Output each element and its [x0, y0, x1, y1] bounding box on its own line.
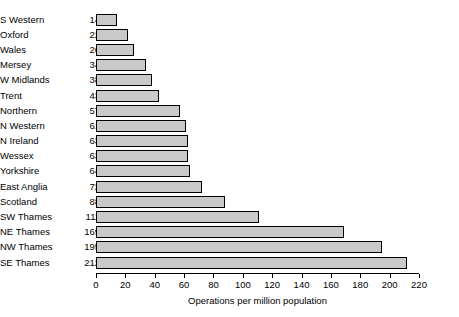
category-label: Oxford — [0, 30, 74, 40]
bar — [96, 135, 188, 147]
bar — [96, 105, 180, 117]
bar-chart: S Western14Oxford22Wales26Mersey34W Midl… — [0, 0, 459, 317]
category-label: W Midlands — [0, 75, 74, 85]
chart-row: Trent43 — [0, 88, 459, 103]
category-label: Wales — [0, 45, 74, 55]
chart-row: N Western61 — [0, 118, 459, 133]
category-label: NE Thames — [0, 227, 74, 237]
chart-row: Scotland88 — [0, 194, 459, 209]
bar-track — [96, 209, 419, 224]
chart-row: Oxford22 — [0, 27, 459, 42]
chart-row: Northern57 — [0, 103, 459, 118]
x-tick-label: 200 — [382, 279, 398, 290]
bar — [96, 44, 134, 56]
bar-track — [96, 12, 419, 27]
bar-track — [96, 134, 419, 149]
x-tick — [243, 274, 244, 278]
x-tick-label: 60 — [179, 279, 190, 290]
bar-track — [96, 103, 419, 118]
chart-row: W Midlands38 — [0, 73, 459, 88]
category-label: N Ireland — [0, 136, 74, 146]
x-tick-label: 140 — [294, 279, 310, 290]
bar — [96, 226, 344, 238]
bar-track — [96, 149, 419, 164]
category-label: Scotland — [0, 197, 74, 207]
bar — [96, 181, 202, 193]
bar-track — [96, 27, 419, 42]
category-label: Yorkshire — [0, 166, 74, 176]
chart-row: Mersey34 — [0, 58, 459, 73]
x-tick-label: 180 — [352, 279, 368, 290]
chart-row: NW Thames195 — [0, 240, 459, 255]
x-tick — [419, 274, 420, 278]
x-axis-line — [96, 273, 419, 274]
bar — [96, 257, 407, 269]
bar-track — [96, 118, 419, 133]
x-tick-label: 160 — [323, 279, 339, 290]
x-tick-label: 100 — [235, 279, 251, 290]
bar-track — [96, 225, 419, 240]
x-axis-title: Operations per million population — [96, 295, 419, 306]
bar — [96, 150, 188, 162]
chart-row: SW Thames111 — [0, 209, 459, 224]
category-label: Wessex — [0, 151, 74, 161]
category-label: East Anglia — [0, 182, 74, 192]
x-tick-label: 20 — [120, 279, 131, 290]
x-tick — [302, 274, 303, 278]
bar-track — [96, 88, 419, 103]
x-tick — [360, 274, 361, 278]
bar — [96, 165, 190, 177]
bar — [96, 120, 186, 132]
chart-row: Yorkshire64 — [0, 164, 459, 179]
chart-row: SE Thames212 — [0, 255, 459, 270]
chart-row: NE Thames169 — [0, 225, 459, 240]
bar-track — [96, 255, 419, 270]
bar-track — [96, 179, 419, 194]
category-label: Northern — [0, 106, 74, 116]
chart-row: East Anglia72 — [0, 179, 459, 194]
chart-row: S Western14 — [0, 12, 459, 27]
bar-track — [96, 240, 419, 255]
bar-track — [96, 42, 419, 57]
x-tick — [331, 274, 332, 278]
category-label: Mersey — [0, 60, 74, 70]
bar — [96, 59, 146, 71]
bar — [96, 74, 152, 86]
bar-track — [96, 164, 419, 179]
bar — [96, 211, 259, 223]
x-tick — [272, 274, 273, 278]
category-label: S Western — [0, 15, 74, 25]
x-tick — [155, 274, 156, 278]
x-tick — [390, 274, 391, 278]
x-tick-label: 80 — [208, 279, 219, 290]
x-tick — [125, 274, 126, 278]
x-tick — [213, 274, 214, 278]
bar — [96, 196, 225, 208]
x-tick-label: 220 — [411, 279, 427, 290]
bar-track — [96, 73, 419, 88]
x-tick-label: 0 — [93, 279, 98, 290]
x-tick — [184, 274, 185, 278]
x-tick — [96, 274, 97, 278]
bar — [96, 90, 159, 102]
chart-row: Wessex63 — [0, 149, 459, 164]
category-label: N Western — [0, 121, 74, 131]
chart-rows: S Western14Oxford22Wales26Mersey34W Midl… — [0, 12, 459, 270]
category-label: NW Thames — [0, 242, 74, 252]
bar — [96, 241, 382, 253]
bar-track — [96, 58, 419, 73]
category-label: Trent — [0, 91, 74, 101]
chart-row: Wales26 — [0, 42, 459, 57]
category-label: SW Thames — [0, 212, 74, 222]
bar-track — [96, 194, 419, 209]
category-label: SE Thames — [0, 258, 74, 268]
bar — [96, 14, 117, 26]
x-tick-label: 120 — [264, 279, 280, 290]
chart-row: N Ireland63 — [0, 134, 459, 149]
bar — [96, 29, 128, 41]
x-tick-label: 40 — [149, 279, 160, 290]
